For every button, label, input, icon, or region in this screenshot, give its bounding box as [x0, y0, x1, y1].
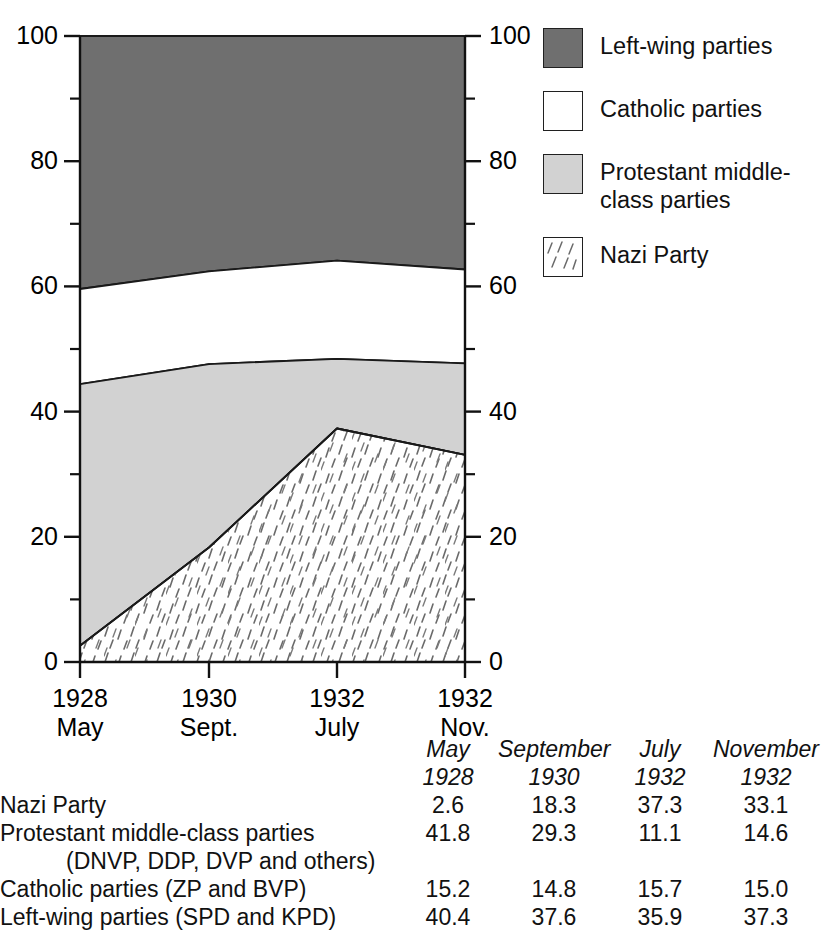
- x-axis-label-3-year: 1932: [277, 684, 397, 713]
- table-header-november-1932-month: November: [713, 736, 819, 762]
- legend-label-catholic-parties: Catholic parties: [600, 91, 762, 123]
- table-cell-protestant-may-1928: 41.8: [398, 819, 498, 847]
- table-cell-nazi-party-may-1928: 2.6: [398, 791, 498, 819]
- y-axis-right-label-0: 0: [489, 649, 503, 674]
- table-cell-catholic-may-1928: 15.2: [398, 875, 498, 903]
- table-cell-nazi-party-november-1932: 33.1: [710, 791, 822, 819]
- legend-label-nazi-party: Nazi Party: [600, 237, 708, 269]
- table-header-september-1930-year: 1930: [498, 763, 610, 791]
- table-cell-catholic-september-1930: 14.8: [498, 875, 610, 903]
- table-row-label-catholic-parties: Catholic parties (ZP and BVP): [0, 875, 398, 903]
- table-cell-protestant-november-1932: 14.6: [710, 819, 822, 847]
- table-cell-nazi-party-september-1930: 18.3: [498, 791, 610, 819]
- table-row: Protestant middle-class parties 41.8 29.…: [0, 819, 822, 847]
- table-header-september-1930: September 1930: [498, 735, 610, 791]
- y-axis-right-label-60: 60: [489, 273, 517, 298]
- x-axis-label-2: 1930 Sept.: [149, 684, 269, 742]
- y-axis-right-minor-ticks: [465, 99, 475, 600]
- y-axis-right-label-20: 20: [489, 524, 517, 549]
- x-axis-label-1-year: 1928: [20, 684, 140, 713]
- table-row: Nazi Party 2.6 18.3 37.3 33.1: [0, 791, 822, 819]
- y-axis-left-label-100: 100: [0, 23, 58, 48]
- table-header-july-1932-year: 1932: [610, 763, 710, 791]
- y-axis-right-label-40: 40: [489, 399, 517, 424]
- table-cell-catholic-november-1932: 15.0: [710, 875, 822, 903]
- y-axis-left-label-80: 80: [0, 148, 58, 173]
- table-cell-catholic-july-1932: 15.7: [610, 875, 710, 903]
- election-results-table: May 1928 September 1930 July 1932 Novemb…: [0, 735, 822, 931]
- x-axis-label-2-year: 1930: [149, 684, 269, 713]
- table-cell-blank-2: [498, 847, 610, 875]
- stacked-area-chart: 100 80 60 40 20 0 100 80 60 40 20 0 1928…: [0, 0, 810, 700]
- results-data-table: May 1928 September 1930 July 1932 Novemb…: [0, 735, 810, 931]
- y-axis-left-label-0: 0: [0, 649, 58, 674]
- table-cell-left-wing-july-1932: 35.9: [610, 903, 710, 931]
- table-row: Catholic parties (ZP and BVP) 15.2 14.8 …: [0, 875, 822, 903]
- table-cell-left-wing-september-1930: 37.6: [498, 903, 610, 931]
- table-cell-left-wing-may-1928: 40.4: [398, 903, 498, 931]
- table-header-blank: [0, 735, 398, 791]
- table-row-label-nazi-party: Nazi Party: [0, 791, 398, 819]
- area-left-wing-parties: [80, 36, 465, 289]
- y-axis-right-label-80: 80: [489, 148, 517, 173]
- legend-item-protestant-middle-class-parties: Protestant middle-class parties: [543, 154, 810, 214]
- legend-swatch-nazi-icon: [543, 237, 583, 277]
- y-axis-left-label-20: 20: [0, 524, 58, 549]
- table-header-november-1932: November 1932: [710, 735, 822, 791]
- legend-swatch-catholic-icon: [543, 91, 583, 131]
- x-axis-label-1: 1928 May: [20, 684, 140, 742]
- legend-swatch-left-wing-icon: [543, 28, 583, 68]
- table-header-july-1932: July 1932: [610, 735, 710, 791]
- x-axis-label-4: 1932 Nov.: [405, 684, 525, 742]
- y-axis-left-label-40: 40: [0, 399, 58, 424]
- legend-item-left-wing-parties: Left-wing parties: [543, 28, 810, 68]
- table-row-label-protestant-middle-class-parties: Protestant middle-class parties: [0, 819, 398, 847]
- table-cell-blank-4: [710, 847, 822, 875]
- legend-label-left-wing-parties: Left-wing parties: [600, 28, 772, 60]
- table-cell-protestant-september-1930: 29.3: [498, 819, 610, 847]
- table-header-november-1932-year: 1932: [710, 763, 822, 791]
- table-header-may-1928: May 1928: [398, 735, 498, 791]
- table-header-july-1932-month: July: [640, 736, 681, 762]
- table-row: Left-wing parties (SPD and KPD) 40.4 37.…: [0, 903, 822, 931]
- x-axis-ticks: [80, 662, 465, 678]
- legend-swatch-protestant-icon: [543, 154, 583, 194]
- y-axis-left-minor-ticks: [70, 99, 80, 600]
- table-cell-left-wing-november-1932: 37.3: [710, 903, 822, 931]
- x-axis-label-3: 1932 July: [277, 684, 397, 742]
- table-header-may-1928-month: May: [426, 736, 469, 762]
- y-axis-left-label-60: 60: [0, 273, 58, 298]
- table-cell-blank-1: [398, 847, 498, 875]
- legend-item-catholic-parties: Catholic parties: [543, 91, 810, 131]
- chart-legend: Left-wing parties Catholic parties Prote…: [543, 28, 810, 300]
- legend-label-protestant-middle-class-parties: Protestant middle-class parties: [600, 154, 810, 214]
- table-row-sublabel-protestant-parties: (DNVP, DDP, DVP and others): [0, 847, 398, 875]
- table-cell-nazi-party-july-1932: 37.3: [610, 791, 710, 819]
- table-row-label-left-wing-parties: Left-wing parties (SPD and KPD): [0, 903, 398, 931]
- x-axis-label-4-year: 1932: [405, 684, 525, 713]
- y-axis-right-label-100: 100: [489, 23, 531, 48]
- legend-item-nazi-party: Nazi Party: [543, 237, 810, 277]
- table-cell-protestant-july-1932: 11.1: [610, 819, 710, 847]
- table-row-continuation: (DNVP, DDP, DVP and others): [0, 847, 822, 875]
- table-header-september-1930-month: September: [498, 736, 611, 762]
- table-cell-blank-3: [610, 847, 710, 875]
- table-header-row: May 1928 September 1930 July 1932 Novemb…: [0, 735, 822, 791]
- table-header-may-1928-year: 1928: [398, 763, 498, 791]
